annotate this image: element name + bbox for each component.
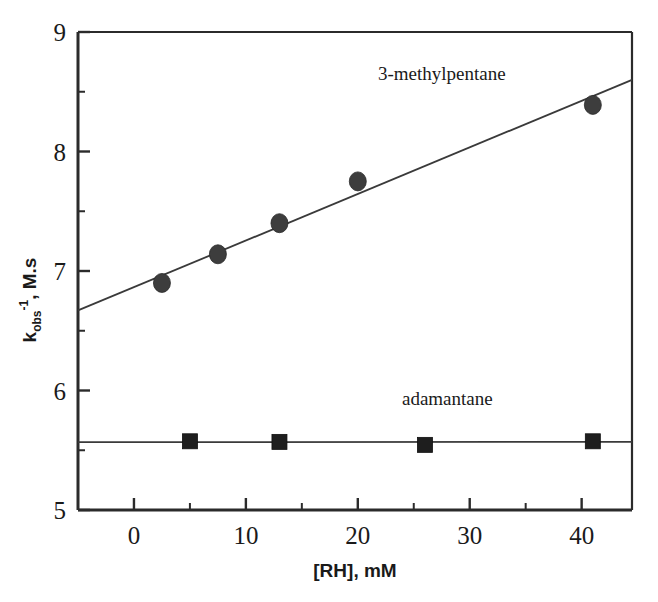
y-tick-label: 6 [54,378,67,405]
x-tick-label: 0 [128,522,141,549]
series-label-circle: 3-methylpentane [378,63,506,84]
data-point-square [182,434,197,449]
data-point-circle [349,172,366,191]
x-tick-label: 40 [569,522,594,549]
y-axis-title-superscript: -1 [17,299,31,310]
series-annotations-layer: 3-methylpentaneadamantane [378,63,506,409]
y-tick-label: 8 [54,139,67,166]
y-tick-label: 7 [54,258,67,285]
y-axis-title: kobs-1, M.s [17,258,44,343]
y-axis-title-subscript: obs [30,310,44,332]
chart-figure: 01020304056789 3-methylpentaneadamantane… [0,0,658,602]
data-series-layer [78,80,632,453]
y-axis-title-rest: , M.s [19,258,40,300]
axis-ticks-layer: 01020304056789 [54,19,595,549]
data-point-circle [271,214,288,233]
x-axis-title: [RH], mM [313,560,396,581]
y-tick-label: 5 [54,497,67,524]
data-point-circle [584,95,601,114]
data-point-circle [153,273,170,292]
x-tick-label: 20 [345,522,370,549]
data-point-square [417,437,432,452]
y-axis-title-base: k [19,331,40,342]
plot-frame [78,32,632,510]
series-label-square: adamantane [402,388,493,409]
data-point-square [272,434,287,449]
chart-svg: 01020304056789 3-methylpentaneadamantane… [0,0,658,602]
x-tick-label: 30 [457,522,482,549]
svg-text:kobs-1, M.s: kobs-1, M.s [17,258,44,343]
data-point-square [585,434,600,449]
x-tick-label: 10 [233,522,258,549]
y-tick-label: 9 [54,19,67,46]
data-point-circle [209,245,226,264]
